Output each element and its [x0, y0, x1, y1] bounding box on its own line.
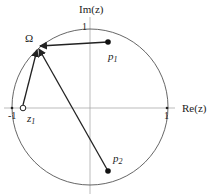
p1-label: p1 — [107, 50, 118, 64]
tick-label-neg-one: -1 — [8, 110, 16, 121]
pole-p2-marker — [105, 168, 111, 174]
tick-label-pos-one-x: 1 — [164, 110, 169, 121]
pole-p1-marker — [105, 39, 111, 45]
tick-label-pos-one-y: 1 — [82, 21, 87, 32]
omega-label: Ω — [25, 32, 33, 44]
z1-label: z1 — [26, 112, 35, 126]
unit-circle-diagram: Im(z) Re(z) -1 1 1 Ω p1 p2 z1 — [0, 0, 208, 195]
arrow-z1-to-omega — [23, 50, 37, 105]
arrow-p1-to-omega — [40, 42, 108, 46]
p2-label: p2 — [112, 152, 123, 166]
zero-z1-marker — [20, 105, 26, 111]
real-axis-label: Re(z) — [182, 102, 207, 115]
tick-neg-one — [11, 107, 14, 110]
tick-pos-one — [166, 107, 169, 110]
imag-axis-label: Im(z) — [79, 3, 104, 16]
arrow-p2-to-omega — [39, 49, 108, 171]
